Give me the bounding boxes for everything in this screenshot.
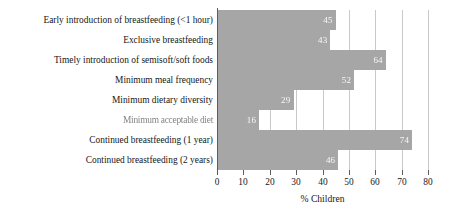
x-tick-label: 20	[265, 176, 274, 188]
bar: 74	[217, 130, 412, 150]
x-tick-label: 30	[291, 176, 300, 188]
category-axis-labels: Early introduction of breastfeeding (<1 …	[0, 10, 217, 170]
category-label: Minimum dietary diversity	[5, 90, 217, 110]
bar-row: 52	[217, 70, 428, 90]
x-tick-label: 10	[238, 176, 247, 188]
category-label: Minimum meal frequency	[5, 70, 217, 90]
bar-value-label: 74	[400, 136, 409, 145]
bar-row: 64	[217, 50, 428, 70]
bar-value-label: 46	[326, 156, 335, 165]
x-tick-label: 70	[397, 176, 406, 188]
bar-value-label: 16	[247, 116, 256, 125]
category-label: Continued breastfeeding (1 year)	[5, 130, 217, 150]
x-tick-mark	[243, 170, 244, 175]
bar: 46	[217, 150, 338, 170]
x-tick-label: 40	[318, 176, 327, 188]
x-tick-mark	[323, 170, 324, 175]
x-tick-mark	[296, 170, 297, 175]
plot-area: 45 43 64 52 29 16	[217, 10, 428, 170]
x-tick-label: 80	[423, 176, 432, 188]
bar-row: 74	[217, 130, 428, 150]
bar: 16	[217, 110, 259, 130]
bar-value-label: 45	[323, 16, 332, 25]
bar: 43	[217, 30, 330, 50]
category-label: Timely introduction of semisoft/soft foo…	[5, 50, 217, 70]
x-tick-label: 50	[344, 176, 353, 188]
bar-value-label: 64	[373, 56, 382, 65]
bar-row: 45	[217, 10, 428, 30]
bar-row: 16	[217, 110, 428, 130]
category-label: Early introduction of breastfeeding (<1 …	[5, 10, 217, 30]
bar: 29	[217, 90, 294, 110]
bar-value-label: 43	[318, 36, 327, 45]
x-tick-mark	[428, 170, 429, 175]
gridline	[428, 10, 429, 170]
x-tick-mark	[375, 170, 376, 175]
category-label: Minimum acceptable diet	[5, 110, 217, 130]
x-tick-label: 60	[370, 176, 379, 188]
x-tick-mark	[270, 170, 271, 175]
y-axis-spine	[217, 8, 218, 171]
bar-chart-figure: 45 43 64 52 29 16	[0, 0, 454, 217]
bar-row: 46	[217, 150, 428, 170]
category-label: Exclusive breastfeeding	[5, 30, 217, 50]
bar-row: 43	[217, 30, 428, 50]
bar-value-label: 29	[281, 96, 290, 105]
bar: 52	[217, 70, 354, 90]
category-label: Continued breastfeeding (2 years)	[5, 150, 217, 170]
x-tick-label: 0	[215, 176, 220, 188]
x-tick-mark	[402, 170, 403, 175]
bar: 45	[217, 10, 336, 30]
bar-value-label: 52	[342, 76, 351, 85]
x-tick-mark	[217, 170, 218, 175]
bar-row: 29	[217, 90, 428, 110]
x-tick-mark	[349, 170, 350, 175]
bar: 64	[217, 50, 386, 70]
x-axis-title: % Children	[217, 193, 428, 204]
